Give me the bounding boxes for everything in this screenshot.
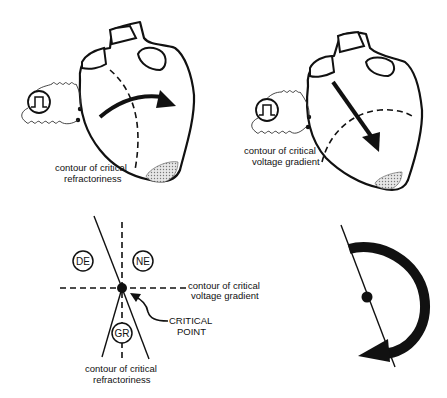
- wavefront-arrow-shaft: [100, 96, 162, 117]
- rotation-center-dot: [362, 292, 373, 303]
- panel-bottom-right: [341, 225, 425, 367]
- vessel-center: [110, 26, 136, 44]
- stimulator-pulse-icon: [28, 91, 50, 113]
- panel-bottom-left: DE NE GR CRITICAL POINT contour of criti…: [60, 216, 260, 385]
- reentry-rotation-arc: [349, 247, 425, 354]
- vessel-right: [366, 58, 394, 77]
- wavefront-arrow-shaft: [333, 82, 371, 136]
- figure-diagram: contour of critical refractoriness conto…: [0, 0, 447, 398]
- reentry-arrow-head: [358, 339, 390, 362]
- region-gr: GR: [112, 323, 132, 343]
- vessel-left: [310, 56, 334, 77]
- wavefront-arrow-head: [362, 132, 380, 152]
- critical-point-dot: [117, 283, 127, 293]
- critical-point-pointer: [134, 296, 168, 321]
- vessel-center: [338, 32, 364, 52]
- stimulator-wire-bottom: [252, 118, 306, 133]
- label-voltage-gradient-l1: contour of critical: [244, 145, 316, 156]
- refractoriness-contour: [110, 70, 138, 170]
- region-de: DE: [73, 251, 93, 271]
- label-voltage-gradient-l2: voltage gradient: [252, 156, 320, 167]
- svg-text:NE: NE: [136, 256, 150, 267]
- svg-text:DE: DE: [76, 256, 90, 267]
- label-voltage-gradient-l2: voltage gradient: [191, 290, 259, 301]
- label-refractoriness-l1: contour of critical: [55, 162, 127, 173]
- wavefront-line-left: [94, 216, 122, 288]
- vessel-left: [82, 48, 106, 69]
- label-critical: CRITICAL: [169, 315, 212, 326]
- label-refractoriness-l2: refractoriness: [93, 374, 151, 385]
- panel-top-right: contour of critical voltage gradient: [244, 32, 422, 190]
- panel-top-left: contour of critical refractoriness: [22, 22, 194, 184]
- electrode-dot: [306, 125, 310, 129]
- stimulator-pulse-icon: [256, 99, 278, 121]
- wavefront-line-gr-left: [102, 288, 122, 357]
- vessel-right: [138, 48, 166, 70]
- wavefront-arrow-head: [156, 90, 176, 108]
- label-point: POINT: [177, 326, 206, 337]
- label-refractoriness-l2: refractoriness: [64, 173, 122, 184]
- svg-text:GR: GR: [115, 328, 130, 339]
- region-ne: NE: [133, 251, 153, 271]
- pointer-arrow-head: [130, 293, 141, 302]
- stimulator-wire-bottom: [22, 108, 78, 124]
- label-refractoriness-l1: contour of critical: [85, 363, 157, 374]
- shaded-apex: [375, 172, 402, 189]
